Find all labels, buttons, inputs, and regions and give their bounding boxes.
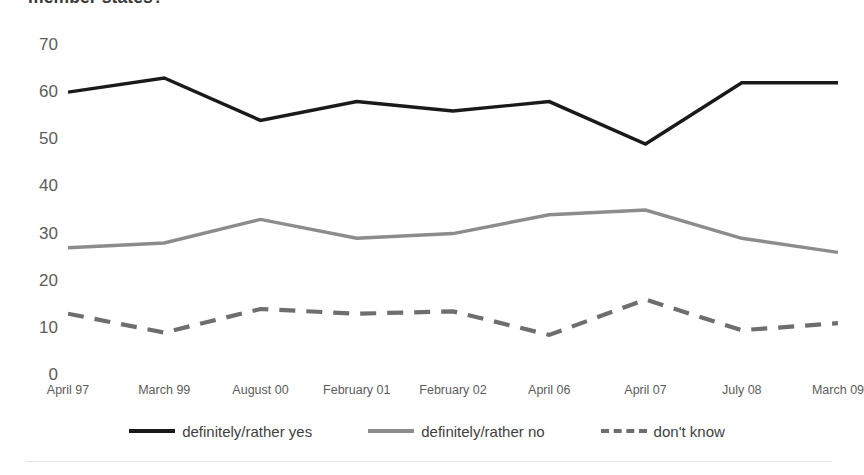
x-tick-label: July 08 (722, 383, 762, 397)
x-tick-label: August 00 (232, 383, 288, 397)
y-tick-label: 70 (0, 35, 58, 55)
y-tick-label: 60 (0, 82, 58, 102)
legend-swatch-icon (368, 429, 414, 433)
chart-legend: definitely/rather yesdefinitely/rather n… (0, 418, 854, 444)
legend-swatch-icon (601, 429, 647, 433)
x-tick-label: April 07 (624, 383, 666, 397)
y-tick-label: 50 (0, 129, 58, 149)
series-line (68, 210, 838, 252)
y-tick-label: 0 (0, 365, 58, 385)
y-axis: 706050403020100 (0, 45, 58, 375)
legend-label: definitely/rather yes (182, 423, 312, 440)
plot-area (68, 45, 838, 375)
x-tick-label: March 99 (138, 383, 190, 397)
legend-swatch-icon (129, 429, 175, 433)
legend-label: don't know (654, 423, 725, 440)
series-line (68, 78, 838, 144)
bottom-divider (26, 461, 832, 462)
legend-entry[interactable]: definitely/rather yes (129, 423, 312, 440)
legend-label: definitely/rather no (421, 423, 544, 440)
x-tick-label: February 01 (323, 383, 390, 397)
y-tick-label: 40 (0, 176, 58, 196)
x-tick-label: March 09 (812, 383, 864, 397)
y-tick-label: 10 (0, 318, 58, 338)
y-tick-label: 30 (0, 224, 58, 244)
series-line (68, 300, 838, 335)
y-tick-label: 20 (0, 271, 58, 291)
x-tick-label: February 02 (419, 383, 486, 397)
legend-entry[interactable]: definitely/rather no (368, 423, 544, 440)
chart-title: member states? (28, 0, 628, 9)
x-tick-label: April 06 (528, 383, 570, 397)
x-axis: April 97March 99August 00February 01Febr… (68, 383, 838, 405)
x-tick-label: April 97 (47, 383, 89, 397)
legend-entry[interactable]: don't know (601, 423, 725, 440)
plot-svg (68, 45, 838, 375)
